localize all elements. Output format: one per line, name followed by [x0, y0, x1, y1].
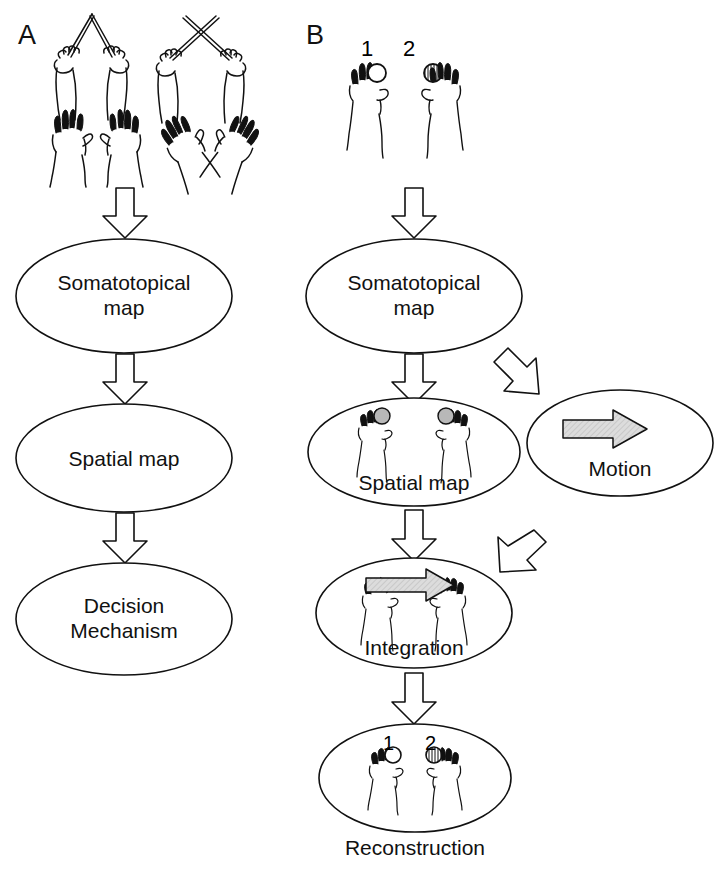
node-b-reconstruction: 1 2	[317, 722, 513, 834]
node-a-spatial-map: Spatial map	[14, 402, 234, 514]
node-b-somatotopical-map: Somatotopical map	[304, 237, 524, 355]
panel-b: 1 2	[300, 0, 716, 875]
node-a-decision-mechanism: Decision Mechanism	[14, 561, 234, 677]
stimulus-crossed-hands	[153, 107, 267, 194]
arrow-a-spatial-to-decision	[95, 511, 155, 566]
node-b-spatial-map: Spatial map	[306, 396, 522, 508]
panel-a: Somatotopical map Spatial map Decision M…	[0, 0, 300, 875]
arrow-b-integration-to-reconstruction	[384, 671, 444, 727]
panel-b-stimulus-hands	[325, 58, 485, 168]
node-b-integration: Integration	[314, 556, 514, 670]
node-b-reconstruction-label: Reconstruction	[317, 836, 513, 860]
reconstruction-marker-2: 2	[425, 732, 436, 755]
figure-canvas: A B	[0, 0, 716, 875]
arrow-a-stimuli-to-somatotopical	[95, 186, 155, 241]
reconstruction-marker-1: 1	[383, 732, 394, 755]
node-a-somatotopical-map: Somatotopical map	[14, 237, 234, 355]
node-b-motion: Motion	[525, 388, 715, 498]
arrow-b-stimulus-to-somatotopical	[384, 186, 444, 241]
arrow-a-somatotopical-to-spatial	[95, 352, 155, 407]
stimulus-uncrossed-hands	[50, 110, 143, 187]
panel-a-open-hands	[20, 105, 270, 195]
